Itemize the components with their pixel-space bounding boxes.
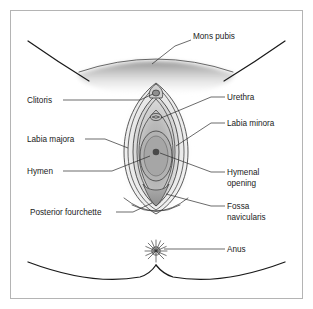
anatomy-figure: Mons pubis Clitoris Labia majora Hymen P… [0, 0, 313, 309]
label-clitoris: Clitoris [27, 96, 52, 105]
label-hymen: Hymen [27, 167, 53, 176]
label-anus: Anus [227, 245, 246, 254]
urethra-shape [150, 113, 161, 120]
label-labia-majora: Labia majora [27, 135, 75, 144]
anus-shape [145, 240, 167, 262]
label-mons-pubis: Mons pubis [193, 32, 235, 41]
label-posterior-fourchette: Posterior fourchette [30, 208, 102, 217]
label-urethra: Urethra [227, 93, 255, 102]
hymenal-opening-dot [153, 149, 160, 156]
label-hymenal-opening-line1: Hymenal [227, 168, 259, 177]
anatomy-illustration: Mons pubis Clitoris Labia majora Hymen P… [0, 0, 313, 309]
label-fossa-navicularis-line2: navicularis [227, 213, 266, 222]
label-fossa-navicularis-line1: Fossa [227, 202, 250, 211]
label-hymenal-opening-line2: opening [227, 179, 257, 188]
label-labia-minora: Labia minora [227, 119, 275, 128]
